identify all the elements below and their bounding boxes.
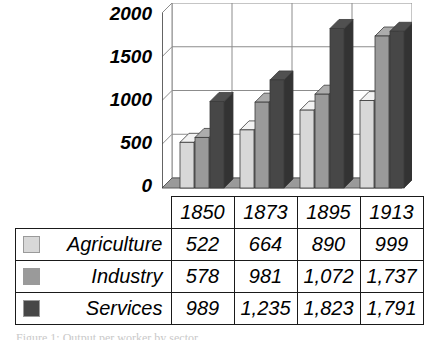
cell-services-1873: 1,235	[234, 293, 297, 325]
year-header-1873: 1873	[234, 197, 297, 229]
y-tick-0: 0	[30, 176, 152, 195]
legend-swatch-cell-industry	[16, 261, 48, 293]
data-table: 1850 1873 1895 1913 Agriculture 522 664 …	[15, 196, 424, 325]
legend-swatch-cell-agriculture	[16, 229, 48, 261]
year-header-1895: 1895	[297, 197, 360, 229]
y-axis-labels: 2000 1500 1000 500 0	[30, 0, 152, 200]
bar-services-1913	[390, 22, 412, 188]
table-row: Agriculture 522 664 890 999	[16, 229, 424, 261]
cell-industry-1895: 1,072	[297, 261, 360, 293]
industry-swatch	[23, 268, 40, 285]
cell-services-1895: 1,823	[297, 293, 360, 325]
year-header-1913: 1913	[360, 197, 423, 229]
year-header-1850: 1850	[171, 197, 234, 229]
header-blank-label	[48, 197, 172, 229]
y-tick-2000: 2000	[30, 4, 152, 23]
series-label-industry: Industry	[48, 261, 172, 293]
bar-chart: 2000 1500 1000 500 0	[0, 0, 439, 200]
bar-services-1850	[210, 92, 233, 188]
legend-swatch-cell-services	[16, 293, 48, 325]
cell-industry-1873: 981	[234, 261, 297, 293]
cell-agriculture-1913: 999	[360, 229, 423, 261]
header-blank-swatch	[16, 197, 48, 229]
figure-chart-with-data-table: 2000 1500 1000 500 0	[0, 0, 439, 340]
y-tick-1500: 1500	[30, 47, 152, 66]
table-row: Industry 578 981 1,072 1,737	[16, 261, 424, 293]
bar-services-1895	[330, 19, 353, 188]
series-label-agriculture: Agriculture	[48, 229, 172, 261]
agriculture-swatch	[23, 236, 40, 253]
services-swatch	[23, 300, 40, 317]
cell-services-1850: 989	[171, 293, 234, 325]
cell-industry-1850: 578	[171, 261, 234, 293]
plot-area	[162, 3, 412, 200]
y-tick-500: 500	[30, 133, 152, 152]
y-tick-1000: 1000	[30, 90, 152, 109]
cell-industry-1913: 1,737	[360, 261, 423, 293]
series-label-services: Services	[48, 293, 172, 325]
cell-services-1913: 1,791	[360, 293, 423, 325]
cell-agriculture-1850: 522	[171, 229, 234, 261]
plot-svg	[162, 3, 412, 200]
bar-services-1873	[270, 71, 293, 188]
table-row: Services 989 1,235 1,823 1,791	[16, 293, 424, 325]
cell-agriculture-1895: 890	[297, 229, 360, 261]
figure-caption: Figure 1: Output per worker by sector	[16, 331, 426, 340]
table-header-row: 1850 1873 1895 1913	[16, 197, 424, 229]
cell-agriculture-1873: 664	[234, 229, 297, 261]
